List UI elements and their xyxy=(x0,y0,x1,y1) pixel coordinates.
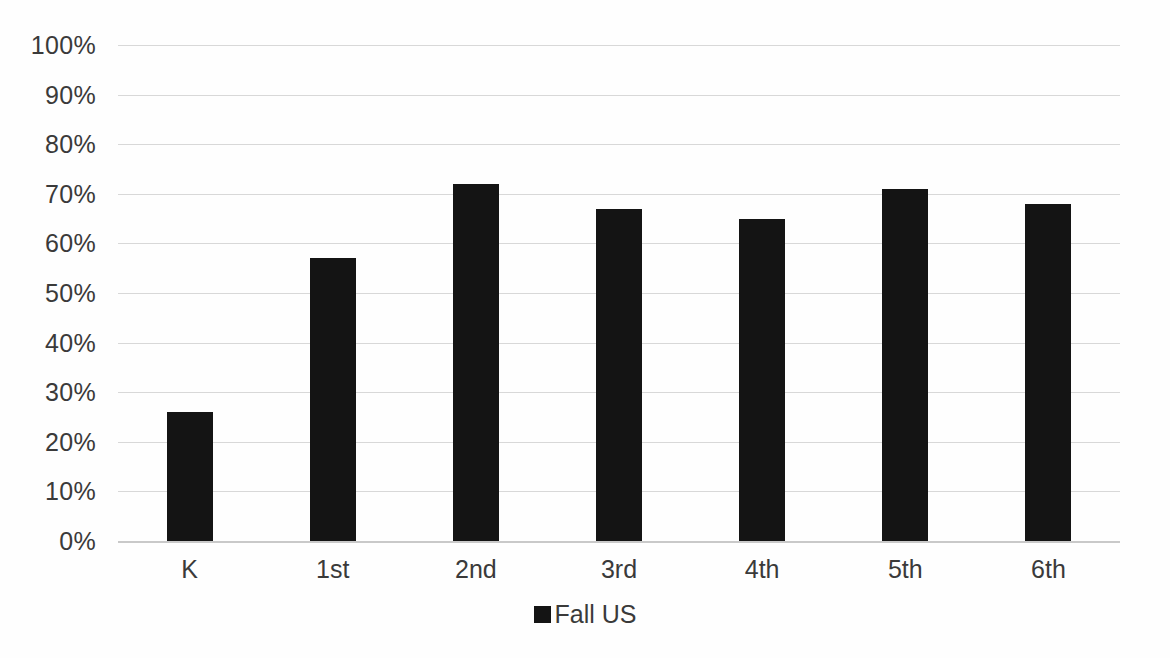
x-axis-tick-label: 1st xyxy=(316,555,349,584)
bar-5th[interactable] xyxy=(882,189,928,541)
y-axis-tick-label: 40% xyxy=(45,328,96,357)
y-axis-tick-label: 30% xyxy=(45,378,96,407)
y-axis-tick-label: 10% xyxy=(45,477,96,506)
gridline xyxy=(118,541,1120,543)
bar-series-fall-us xyxy=(118,45,1120,541)
bar-3rd[interactable] xyxy=(596,209,642,541)
y-axis-tick-label: 80% xyxy=(45,130,96,159)
x-axis-tick-label: 6th xyxy=(1031,555,1066,584)
legend-item-fall-us: Fall US xyxy=(534,600,637,629)
bar-slot xyxy=(261,45,404,541)
bar-slot xyxy=(834,45,977,541)
y-axis-tick-label: 60% xyxy=(45,229,96,258)
x-axis-tick-label: K xyxy=(181,555,198,584)
y-axis-tick-label: 70% xyxy=(45,179,96,208)
x-axis-tick-label: 3rd xyxy=(601,555,637,584)
x-axis-tick-label: 5th xyxy=(888,555,923,584)
bar-slot xyxy=(547,45,690,541)
y-axis-tick-label: 0% xyxy=(59,527,96,556)
y-axis-tick-label: 20% xyxy=(45,427,96,456)
plot-area xyxy=(118,45,1120,541)
legend-swatch-icon xyxy=(534,606,551,623)
legend-label: Fall US xyxy=(555,600,637,629)
bar-1st[interactable] xyxy=(310,258,356,541)
bar-chart: 100%90%80%70%60%50%40%30%20%10%0% K1st2n… xyxy=(0,0,1170,658)
y-axis: 100%90%80%70%60%50%40%30%20%10%0% xyxy=(0,45,106,541)
bar-slot xyxy=(977,45,1120,541)
y-axis-tick-label: 50% xyxy=(45,279,96,308)
x-axis-tick-label: 4th xyxy=(745,555,780,584)
chart-legend: Fall US xyxy=(0,600,1170,629)
bar-slot xyxy=(404,45,547,541)
x-axis-tick-label: 2nd xyxy=(455,555,497,584)
bar-4th[interactable] xyxy=(739,219,785,541)
y-axis-tick-label: 100% xyxy=(31,31,96,60)
bar-k[interactable] xyxy=(167,412,213,541)
bar-slot xyxy=(691,45,834,541)
x-axis: K1st2nd3rd4th5th6th xyxy=(118,545,1120,589)
bar-6th[interactable] xyxy=(1025,204,1071,541)
y-axis-tick-label: 90% xyxy=(45,80,96,109)
bar-2nd[interactable] xyxy=(453,184,499,541)
bar-slot xyxy=(118,45,261,541)
